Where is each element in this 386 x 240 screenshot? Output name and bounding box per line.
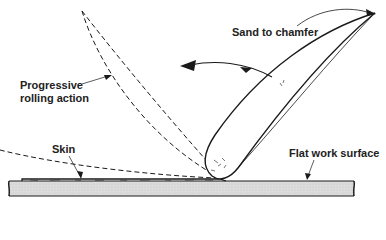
flat-work-surface-label: Flat work surface <box>289 147 379 160</box>
sand-to-chamfer-label: Sand to chamfer <box>232 26 318 39</box>
skin-label: Skin <box>52 143 75 156</box>
rolling-direction-arrow <box>180 60 272 77</box>
progressive-label-line1: Progressive <box>20 79 89 92</box>
progressive-label-line2: rolling action <box>20 92 89 105</box>
flat-surface-leader <box>305 160 314 180</box>
progressive-rolling-label: Progressive rolling action <box>20 79 89 105</box>
flat-work-surface <box>8 181 354 196</box>
skin-leader <box>69 156 83 179</box>
